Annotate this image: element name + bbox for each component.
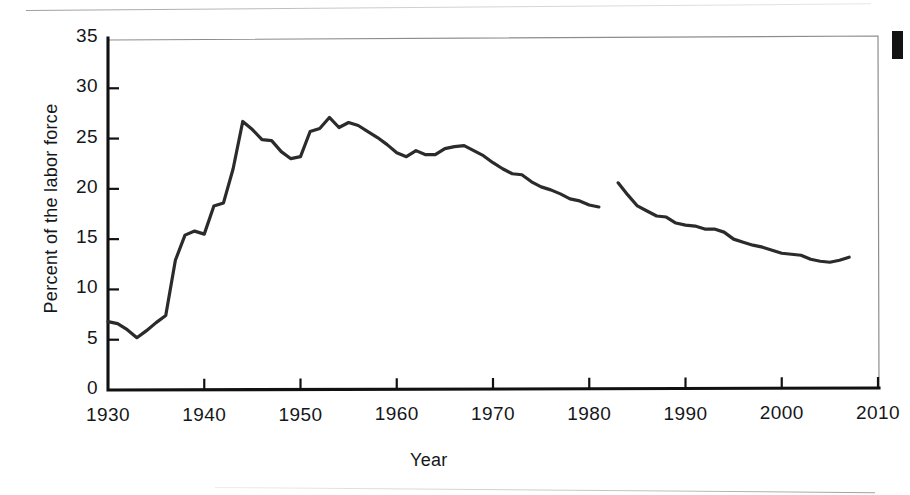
series-line-2 <box>618 183 849 262</box>
x-tick-label-1990: 1990 <box>650 403 722 425</box>
x-tick-label-2010: 2010 <box>842 402 910 424</box>
x-tick-label-1930: 1930 <box>72 404 144 426</box>
data-series <box>108 117 849 337</box>
y-tick-label-0: 0 <box>36 377 98 399</box>
x-tick-label-1980: 1980 <box>553 403 625 425</box>
x-tick-label-1970: 1970 <box>457 403 529 425</box>
x-tick-label-1950: 1950 <box>265 404 337 426</box>
line-chart: 05101520253035 1930194019501960197019801… <box>0 0 910 495</box>
axes <box>108 38 879 390</box>
figure-page: 05101520253035 1930194019501960197019801… <box>0 0 910 495</box>
x-tick-label-1960: 1960 <box>361 403 433 425</box>
y-tick-label-5: 5 <box>36 327 98 349</box>
series-line-1 <box>108 117 599 337</box>
y-tick-label-35: 35 <box>36 25 98 47</box>
x-tick-label-2000: 2000 <box>746 402 818 424</box>
y-axis-title: Percent of the labor force <box>41 94 62 324</box>
plot-frame <box>108 36 879 388</box>
axis-ticks <box>108 88 878 389</box>
x-axis-title: Year <box>410 450 448 471</box>
x-tick-label-1940: 1940 <box>168 404 240 426</box>
